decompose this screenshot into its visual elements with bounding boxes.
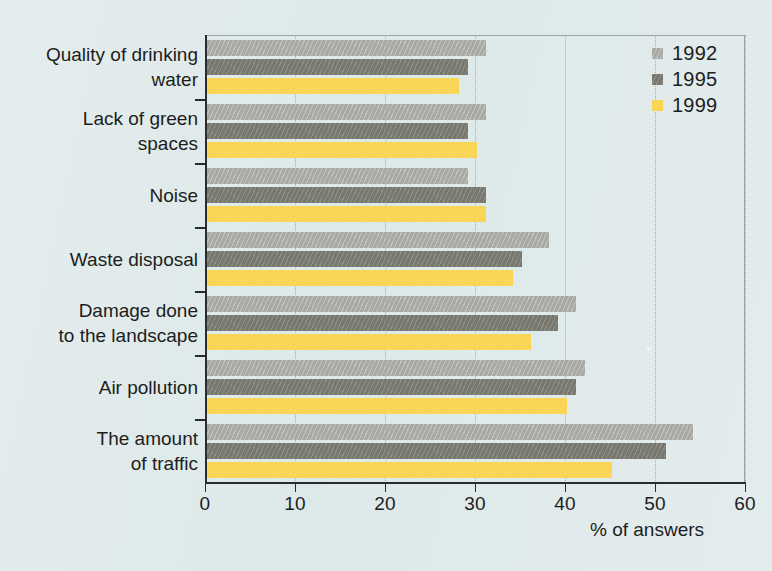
bar xyxy=(207,315,558,331)
x-axis-title: % of answers xyxy=(590,519,704,541)
bar-group xyxy=(207,424,747,478)
bar xyxy=(207,424,693,440)
bar-group xyxy=(207,360,747,414)
x-axis-tick xyxy=(385,483,386,492)
x-axis-tick-label: 40 xyxy=(535,493,595,515)
x-axis-tick xyxy=(655,483,656,492)
bar xyxy=(207,443,666,459)
bar xyxy=(207,462,612,478)
x-axis-tick-label: 10 xyxy=(265,493,325,515)
category-label: Air pollution xyxy=(0,375,198,400)
legend-swatch-icon xyxy=(652,74,663,85)
category-label: Quality of drinking water xyxy=(0,42,198,92)
bar xyxy=(207,398,567,414)
category-label: Waste disposal xyxy=(0,247,198,272)
x-axis-tick xyxy=(745,483,746,492)
x-axis-tick xyxy=(295,483,296,492)
x-axis-tick-label: 30 xyxy=(445,493,505,515)
bar xyxy=(207,296,576,312)
x-axis-tick-label: 60 xyxy=(715,493,772,515)
bar xyxy=(207,104,486,120)
y-axis-line xyxy=(205,35,207,483)
bar xyxy=(207,232,549,248)
category-label: Lack of green spaces xyxy=(0,106,198,156)
bar xyxy=(207,142,477,158)
bar-group xyxy=(207,232,747,286)
bar xyxy=(207,334,531,350)
legend-swatch-icon xyxy=(652,100,663,111)
legend-item: 1992 xyxy=(652,40,738,66)
bar-group xyxy=(207,168,747,222)
x-axis-tick-label: 20 xyxy=(355,493,415,515)
bar xyxy=(207,187,486,203)
bar xyxy=(207,206,486,222)
x-axis-tick xyxy=(475,483,476,492)
bar-group xyxy=(207,296,747,350)
bar xyxy=(207,360,585,376)
x-axis-tick-label: 0 xyxy=(175,493,235,515)
legend-item: 1999 xyxy=(652,92,738,118)
bar xyxy=(207,59,468,75)
bar xyxy=(207,78,459,94)
legend: 199219951999 xyxy=(652,40,738,118)
legend-label: 1995 xyxy=(672,68,717,91)
legend-label: 1992 xyxy=(672,42,717,65)
bar xyxy=(207,379,576,395)
x-axis-tick xyxy=(205,483,206,492)
bar xyxy=(207,123,468,139)
x-axis-tick-label: 50 xyxy=(625,493,685,515)
legend-swatch-icon xyxy=(652,48,663,59)
bar-chart: Quality of drinking waterLack of green s… xyxy=(0,0,772,571)
bar xyxy=(207,270,513,286)
category-axis-labels: Quality of drinking waterLack of green s… xyxy=(0,35,198,483)
legend-label: 1999 xyxy=(672,94,717,117)
category-label: Noise xyxy=(0,183,198,208)
category-label: Damage done to the landscape xyxy=(0,298,198,348)
x-axis-tick xyxy=(565,483,566,492)
bar xyxy=(207,40,486,56)
category-label: The amount of traffic xyxy=(0,426,198,476)
bar xyxy=(207,168,468,184)
legend-item: 1995 xyxy=(652,66,738,92)
bar xyxy=(207,251,522,267)
